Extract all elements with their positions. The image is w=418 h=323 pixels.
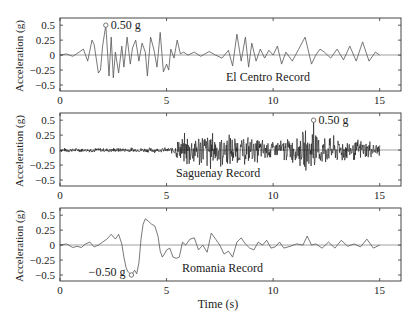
svg-text:15: 15 <box>374 189 386 201</box>
svg-text:−0.25: −0.25 <box>30 64 56 76</box>
y-axis-label-romania: Acceleration (g) <box>13 210 26 282</box>
panel-el-centro: Acceleration (g) 0.5 0.25 0 −0.25 −0.5 0… <box>13 18 401 106</box>
panel-saguenay: Acceleration (g) 0.5 0.25 0 −0.25 −0.5 0… <box>13 113 401 201</box>
svg-text:5: 5 <box>164 94 170 106</box>
x-tick-labels: 0 5 10 15 <box>57 94 385 106</box>
record-title-romania: Romania Record <box>182 261 263 275</box>
acceleration-time-histories-figure: Acceleration (g) 0.5 0.25 0 −0.25 −0.5 0… <box>0 0 418 323</box>
svg-text:0: 0 <box>57 189 63 201</box>
svg-text:0: 0 <box>57 94 63 106</box>
svg-text:0: 0 <box>50 144 56 156</box>
svg-text:0: 0 <box>50 239 56 251</box>
svg-text:−0.5: −0.5 <box>35 269 55 281</box>
y-tick-labels: 0.5 0.25 0 −0.25 −0.5 <box>30 209 56 281</box>
svg-text:0.25: 0.25 <box>36 34 56 46</box>
peak-marker <box>311 118 315 122</box>
y-axis-label-saguenay: Acceleration (g) <box>13 115 26 187</box>
svg-text:5: 5 <box>164 189 170 201</box>
x-axis-label: Time (s) <box>198 297 239 311</box>
y-axis-label-el-centro: Acceleration (g) <box>13 20 26 92</box>
record-title-saguenay: Saguenay Record <box>176 166 260 180</box>
svg-text:5: 5 <box>164 284 170 296</box>
svg-text:−0.25: −0.25 <box>30 159 56 171</box>
x-tick-labels: 0 5 10 15 <box>57 284 385 296</box>
peak-annotation: −0.50 g <box>89 265 126 279</box>
y-tick-labels: 0.5 0.25 0 −0.25 −0.5 <box>30 19 56 91</box>
peak-annotation: 0.50 g <box>319 113 349 127</box>
peak-marker <box>104 23 108 27</box>
y-tick-labels: 0.5 0.25 0 −0.25 −0.5 <box>30 114 56 186</box>
svg-text:10: 10 <box>268 189 280 201</box>
svg-text:10: 10 <box>268 284 280 296</box>
panel-romania: Acceleration (g) 0.5 0.25 0 −0.25 −0.5 0… <box>13 208 401 311</box>
svg-text:10: 10 <box>268 94 280 106</box>
peak-marker <box>129 273 133 277</box>
el-centro-trace <box>60 25 380 78</box>
svg-text:0.5: 0.5 <box>41 209 55 221</box>
svg-text:0.5: 0.5 <box>41 114 55 126</box>
saguenay-trace <box>60 120 380 170</box>
svg-text:15: 15 <box>374 94 386 106</box>
record-title-el-centro: El Centro Record <box>226 70 310 84</box>
svg-text:0.25: 0.25 <box>36 224 56 236</box>
svg-text:0: 0 <box>57 284 63 296</box>
svg-text:0.25: 0.25 <box>36 129 56 141</box>
svg-text:15: 15 <box>374 284 386 296</box>
svg-text:−0.5: −0.5 <box>35 79 55 91</box>
svg-text:0.5: 0.5 <box>41 19 55 31</box>
peak-annotation: 0.50 g <box>111 18 141 32</box>
x-tick-labels: 0 5 10 15 <box>57 189 385 201</box>
svg-text:0: 0 <box>50 49 56 61</box>
svg-text:−0.5: −0.5 <box>35 174 55 186</box>
svg-text:−0.25: −0.25 <box>30 254 56 266</box>
